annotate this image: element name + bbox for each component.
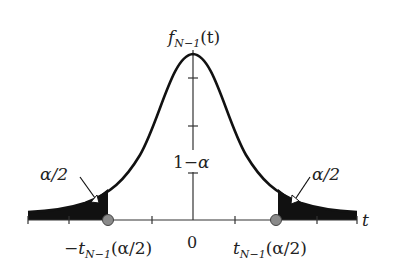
left-tail-arrow — [80, 177, 99, 203]
left-critical-marker — [103, 215, 114, 226]
left-critical-label: −tN−1(α/2) — [64, 238, 152, 261]
right-tail-region — [278, 189, 357, 220]
right-tail-label: α/2 — [312, 164, 340, 184]
x-axis-label: t — [362, 210, 369, 230]
right-critical-marker — [271, 215, 282, 226]
left-tail-label: α/2 — [40, 164, 68, 184]
right-tail-arrow — [291, 177, 310, 204]
y-axis-label: fN−1(t) — [166, 27, 220, 50]
origin-label: 0 — [187, 233, 197, 252]
t-distribution-diagram: fN−1(t) 1−α α/2 α/2 t 0 −tN−1(α/2) tN−1(… — [0, 0, 394, 271]
left-tail-region — [28, 189, 108, 220]
center-probability-label: 1−α — [173, 152, 210, 172]
right-critical-label: tN−1(α/2) — [233, 238, 307, 261]
